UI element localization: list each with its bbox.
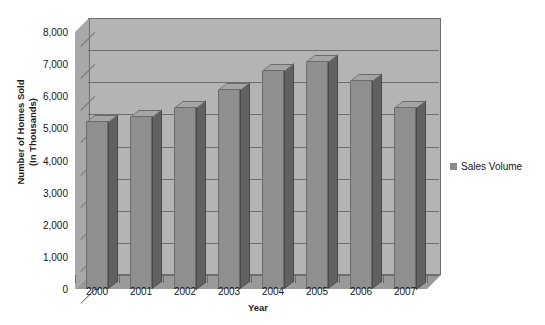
bar-2003	[218, 90, 250, 289]
bar-2005	[306, 62, 338, 289]
plot-area	[75, 18, 441, 293]
x-tick-label-2006: 2006	[339, 286, 383, 297]
y-tick-label: 5,000	[24, 123, 68, 134]
bar-side-face	[416, 100, 426, 289]
bar-front-face	[350, 81, 372, 289]
x-axis-labels: 20002001200220032004200520062007	[75, 286, 441, 302]
x-tick-label-2001: 2001	[119, 286, 163, 297]
bar-side-face	[372, 73, 382, 289]
chart-legend: Sales Volume	[450, 161, 522, 172]
y-tick-label: 1,000	[24, 251, 68, 262]
x-axis-ticks	[75, 275, 441, 285]
bar-front-face	[174, 108, 196, 290]
y-tick-label: 0	[24, 284, 68, 295]
x-tick-label-2000: 2000	[75, 286, 119, 297]
bar-2004	[262, 71, 294, 289]
bar-front-face	[306, 62, 328, 289]
bar-2006	[350, 81, 382, 289]
bar-2002	[174, 108, 206, 290]
y-tick-label: 6,000	[24, 91, 68, 102]
x-tick-label-2003: 2003	[207, 286, 251, 297]
sales-volume-swatch-icon	[450, 163, 457, 170]
x-tick-mark	[295, 275, 296, 283]
x-tick-mark	[207, 275, 208, 283]
y-axis-ticks: 01,0002,0003,0004,0005,0006,0007,0008,00…	[24, 0, 68, 325]
bar-side-face	[152, 109, 162, 289]
bar-2007	[394, 108, 426, 290]
y-tick-label: 2,000	[24, 219, 68, 230]
y-tick-label: 3,000	[24, 187, 68, 198]
bar-side-face	[328, 54, 338, 289]
bar-side-face	[108, 114, 118, 289]
bar-front-face	[86, 122, 108, 289]
x-tick-mark	[75, 275, 76, 283]
legend-item-label: Sales Volume	[461, 161, 522, 172]
bar-2000	[86, 122, 118, 289]
bar-chart: Number of Homes Sold (In Thousands) 01,0…	[0, 0, 545, 325]
x-tick-mark	[427, 275, 428, 283]
bars-layer	[75, 18, 441, 293]
bar-2001	[130, 117, 162, 289]
bar-front-face	[262, 71, 284, 289]
y-tick-label: 4,000	[24, 155, 68, 166]
bar-front-face	[130, 117, 152, 289]
x-tick-mark	[383, 275, 384, 283]
x-tick-label-2007: 2007	[383, 286, 427, 297]
x-tick-mark	[251, 275, 252, 283]
x-axis-title: Year	[75, 302, 441, 313]
x-tick-label-2002: 2002	[163, 286, 207, 297]
bar-side-face	[196, 100, 206, 289]
y-tick-label: 8,000	[24, 27, 68, 38]
bar-side-face	[240, 83, 250, 289]
y-tick-label: 7,000	[24, 59, 68, 70]
bar-front-face	[218, 90, 240, 289]
x-tick-mark	[119, 275, 120, 283]
bar-side-face	[284, 63, 294, 289]
x-tick-label-2004: 2004	[251, 286, 295, 297]
x-tick-mark	[163, 275, 164, 283]
x-tick-label-2005: 2005	[295, 286, 339, 297]
bar-front-face	[394, 108, 416, 290]
x-tick-mark	[339, 275, 340, 283]
